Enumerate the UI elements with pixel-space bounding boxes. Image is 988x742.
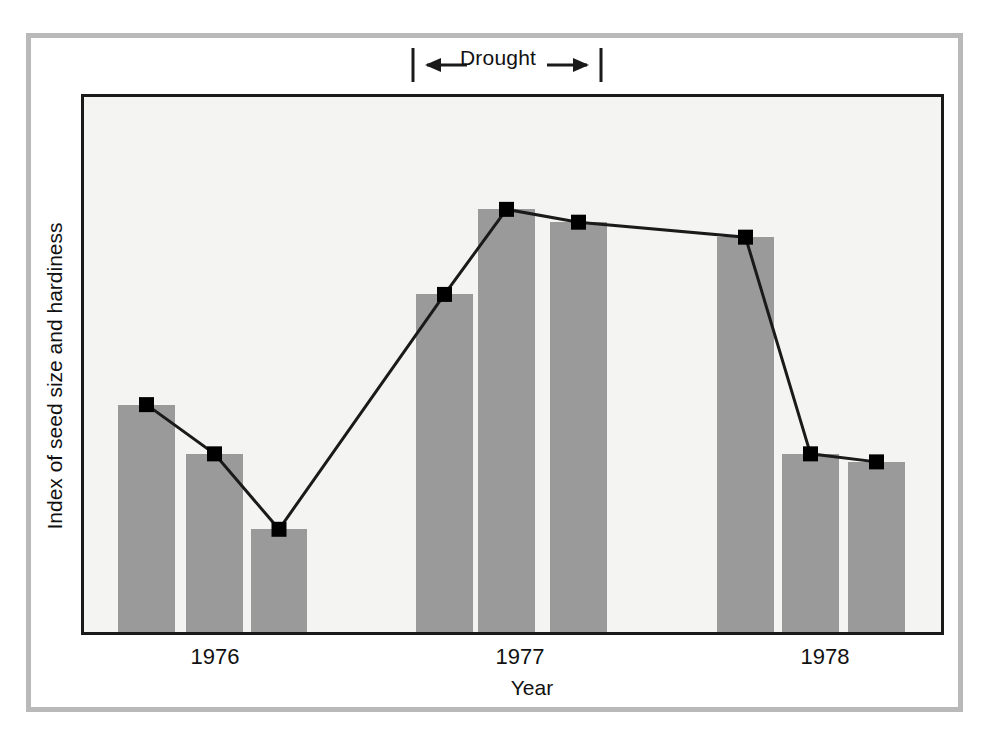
data-point-1976-2	[207, 446, 222, 461]
x-tick-1976: 1976	[155, 644, 275, 670]
line-series-layer	[84, 97, 941, 632]
data-point-1977-1	[437, 287, 452, 302]
x-axis-title: Year	[0, 676, 988, 700]
plot-area	[81, 94, 944, 635]
y-axis-title: Index of seed size and hardiness	[43, 106, 67, 646]
x-tick-1977: 1977	[460, 644, 580, 670]
data-point-1977-2	[499, 202, 514, 217]
drought-annotation-label: Drought	[0, 46, 988, 70]
data-point-1976-3	[272, 522, 287, 537]
data-point-1978-1	[738, 230, 753, 245]
x-tick-1978: 1978	[765, 644, 885, 670]
data-point-1977-3	[571, 215, 586, 230]
data-point-1978-2	[803, 446, 818, 461]
data-point-1978-3	[869, 454, 884, 469]
trend-line	[147, 209, 877, 529]
data-point-1976-1	[139, 397, 154, 412]
